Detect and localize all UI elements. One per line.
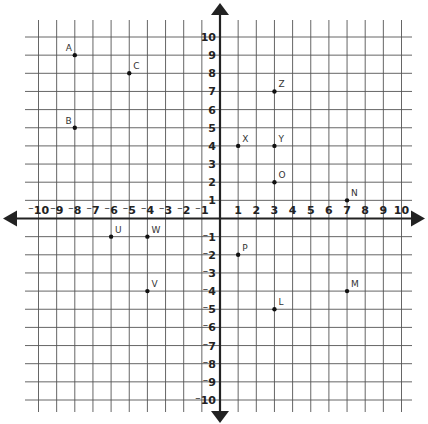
point-dot [127, 71, 131, 75]
y-tick-label: 2 [208, 176, 216, 189]
point-dot [236, 253, 240, 257]
point-dot [272, 89, 276, 93]
x-tick-label: 10 [394, 204, 410, 217]
point-label: M [351, 279, 359, 289]
point-label: V [151, 279, 158, 289]
y-tick-label: 9 [208, 49, 216, 62]
point-dot [73, 53, 77, 57]
x-tick-label: 4 [289, 204, 297, 217]
x-tick-label: 7 [343, 204, 351, 217]
x-tick-label: ⁻8 [68, 204, 81, 217]
point-label: C [133, 61, 139, 71]
y-tick-label: ⁻2 [203, 249, 216, 262]
x-tick-label: ⁻9 [50, 204, 63, 217]
coordinate-plane: ⁻10⁻9⁻8⁻7⁻6⁻5⁻4⁻3⁻2⁻11234567891010987654… [0, 0, 428, 424]
y-tick-label: ⁻5 [203, 303, 216, 316]
point-label: Y [277, 134, 284, 144]
point-label: Z [278, 79, 284, 89]
y-tick-label: ⁻3 [203, 267, 216, 280]
x-tick-label: 9 [380, 204, 388, 217]
y-tick-label: 4 [208, 140, 216, 153]
point-dot [236, 144, 240, 148]
y-tick-label: ⁻4 [203, 285, 217, 298]
point-dot [345, 289, 349, 293]
point-label: X [242, 134, 248, 144]
y-tick-label: 5 [208, 122, 216, 135]
x-tick-label: 2 [252, 204, 260, 217]
point-dot [272, 307, 276, 311]
y-tick-label: ⁻1 [203, 231, 216, 244]
x-tick-label: ⁻3 [159, 204, 172, 217]
arrow-up-icon [211, 3, 229, 15]
point-dot [145, 289, 149, 293]
grid-lines [25, 20, 412, 412]
y-tick-label: ⁻10 [195, 394, 216, 407]
point-dot [272, 180, 276, 184]
x-tick-label: 6 [325, 204, 333, 217]
y-tick-label: ⁻9 [203, 376, 216, 389]
x-tick-label: ⁻7 [86, 204, 99, 217]
arrow-down-icon [211, 411, 229, 423]
y-tick-label: ⁻8 [203, 358, 216, 371]
point-label: B [66, 116, 72, 126]
x-tick-label: ⁻5 [123, 204, 136, 217]
x-tick-label: ⁻10 [28, 204, 49, 217]
x-tick-label: 1 [234, 204, 242, 217]
point-dot [272, 144, 276, 148]
x-tick-label: 3 [271, 204, 279, 217]
x-tick-label: 5 [307, 204, 315, 217]
point-label: N [351, 188, 358, 198]
y-tick-label: ⁻7 [203, 340, 216, 353]
point-label: L [278, 297, 283, 307]
x-tick-label: 8 [361, 204, 369, 217]
y-tick-label: 7 [208, 85, 216, 98]
point-label: U [115, 225, 122, 235]
point-label: O [278, 170, 285, 180]
y-tick-label: 3 [208, 158, 216, 171]
point-dot [109, 234, 113, 238]
point-dot [345, 198, 349, 202]
point-label: A [66, 43, 73, 53]
point-dot [145, 234, 149, 238]
arrow-right-icon [411, 211, 425, 227]
y-tick-label: 10 [201, 31, 217, 44]
x-tick-label: ⁻1 [195, 204, 208, 217]
point-dot [73, 126, 77, 130]
y-tick-label: ⁻6 [203, 321, 217, 334]
x-tick-label: ⁻6 [104, 204, 118, 217]
point-label: W [151, 225, 160, 235]
x-tick-label: ⁻2 [177, 204, 190, 217]
arrow-left-icon [3, 211, 17, 227]
point-label: P [242, 243, 248, 253]
y-tick-label: 6 [208, 104, 216, 117]
y-tick-label: 1 [208, 194, 216, 207]
x-tick-label: ⁻4 [141, 204, 155, 217]
y-tick-label: 8 [208, 67, 216, 80]
